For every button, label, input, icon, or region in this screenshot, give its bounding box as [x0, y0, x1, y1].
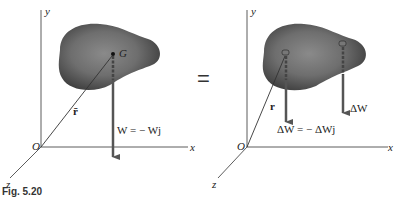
right-diagram: [218, 10, 388, 178]
left-y-label: y: [45, 5, 50, 17]
figure-caption: Fig. 5.20: [2, 186, 42, 197]
equals-sign: =: [197, 66, 210, 92]
left-x-label: x: [190, 141, 195, 153]
left-rigid-body: [59, 24, 160, 90]
left-origin-label: O: [32, 140, 40, 152]
element-weight-label: ΔW: [350, 102, 367, 114]
centroid-point: [111, 52, 115, 56]
right-z-label: z: [212, 178, 216, 190]
element-2: [339, 41, 346, 46]
left-weight-label: W = − Wj: [117, 124, 161, 136]
figure-canvas: [0, 0, 394, 201]
right-y-label: y: [251, 5, 256, 17]
centroid-label: G: [119, 47, 127, 59]
right-position-vector-label: r: [270, 100, 275, 112]
element-1: [282, 50, 289, 55]
left-position-vector-label: r̄: [73, 105, 78, 117]
element-weight-equation: ΔW = − ΔWj: [277, 123, 335, 135]
right-origin-label: O: [237, 140, 245, 152]
right-rigid-body: [263, 24, 366, 91]
left-diagram: [10, 10, 188, 178]
right-x-label: x: [388, 141, 393, 153]
